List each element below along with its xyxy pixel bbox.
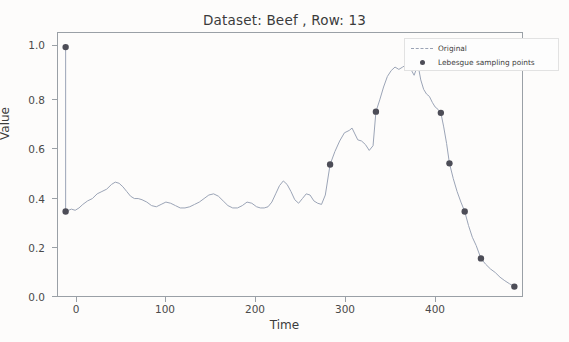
x-tick-label-1: 100 — [145, 303, 185, 315]
plot-svg — [58, 33, 522, 296]
x-tick-mark — [165, 297, 166, 302]
y-tick-label-2: 0.4 — [5, 193, 45, 205]
chart-title: Dataset: Beef , Row: 13 — [0, 12, 569, 28]
x-tick-label-2: 200 — [235, 303, 275, 315]
x-tick-mark — [255, 297, 256, 302]
x-tick-label-0: 0 — [56, 303, 96, 315]
sampling-point — [62, 208, 68, 214]
legend-dot-icon — [409, 60, 435, 65]
figure-canvas: Dataset: Beef , Row: 13 Value Time 0.0 0… — [0, 0, 569, 342]
sampling-point — [373, 108, 379, 114]
sampling-point — [511, 283, 517, 289]
x-tick-mark — [345, 297, 346, 302]
x-axis-label: Time — [0, 318, 569, 332]
sampling-point — [446, 160, 452, 166]
y-tick-label-5: 1.0 — [5, 39, 45, 51]
sampling-point — [327, 161, 333, 167]
legend: Original Lebesgue sampling points — [404, 38, 559, 71]
sampling-point — [438, 110, 444, 116]
y-tick-label-0: 0.0 — [5, 291, 45, 303]
legend-line-icon — [409, 48, 435, 49]
y-axis-label: Value — [0, 107, 12, 140]
x-tick-label-3: 300 — [325, 303, 365, 315]
lebesgue-sampling-points — [62, 44, 517, 290]
y-tick-label-1: 0.2 — [5, 242, 45, 254]
y-tick-label-3: 0.6 — [5, 143, 45, 155]
plot-area — [57, 32, 523, 297]
sampling-point — [478, 255, 484, 261]
x-tick-label-4: 400 — [415, 303, 455, 315]
sampling-point — [62, 44, 68, 50]
y-tick-label-4: 0.8 — [5, 94, 45, 106]
x-tick-mark — [76, 297, 77, 302]
legend-label-original: Original — [438, 44, 467, 53]
x-tick-mark — [435, 297, 436, 302]
legend-label-sampling-points: Lebesgue sampling points — [438, 58, 535, 67]
sampling-point — [462, 208, 468, 214]
original-signal-line — [66, 47, 515, 287]
legend-entry-sampling-points: Lebesgue sampling points — [409, 56, 554, 69]
legend-entry-original: Original — [409, 42, 554, 55]
